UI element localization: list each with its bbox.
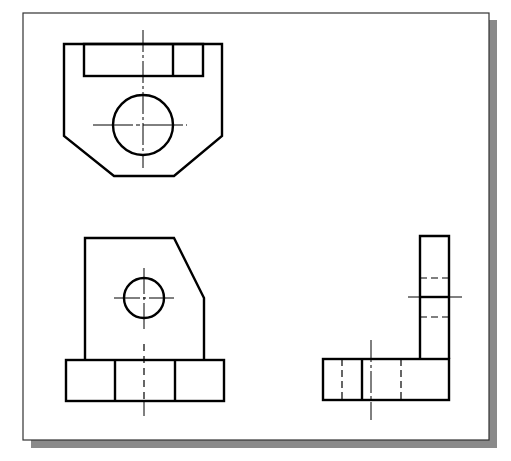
- technical-drawing: [0, 0, 511, 461]
